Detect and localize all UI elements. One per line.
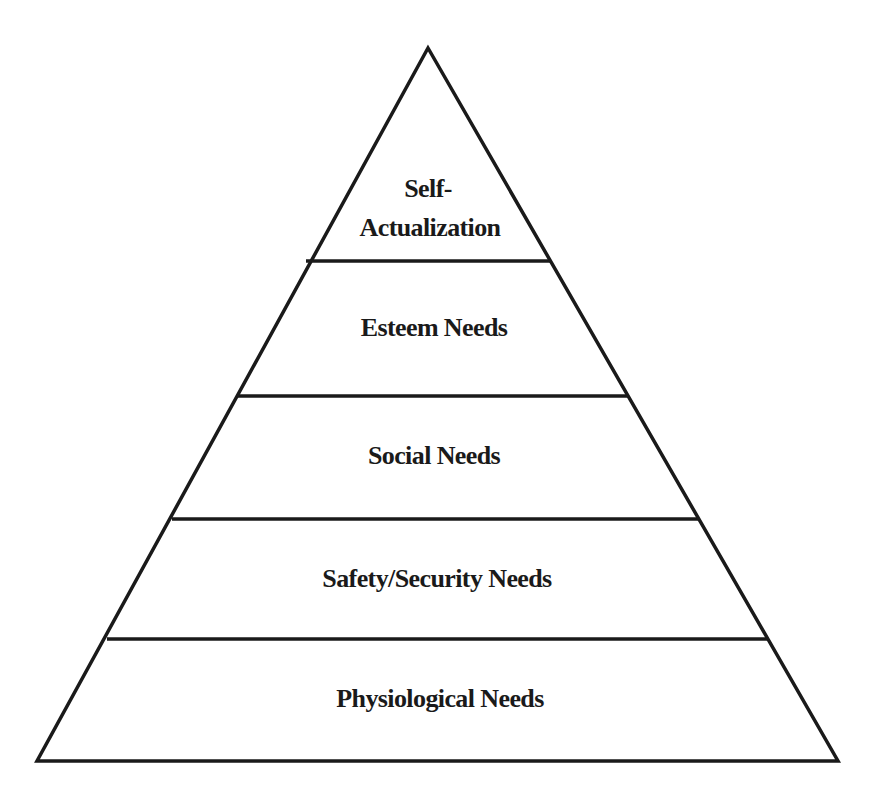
level-esteem: Esteem Needs [361, 313, 508, 342]
level-label: Self- [404, 174, 452, 203]
pyramid-outline [37, 48, 838, 761]
level-label: Safety/Security Needs [322, 564, 552, 593]
level-physiological: Physiological Needs [336, 684, 544, 713]
level-label: Actualization [360, 213, 502, 242]
level-label: Social Needs [368, 441, 501, 470]
level-social: Social Needs [368, 441, 501, 470]
level-safety: Safety/Security Needs [322, 564, 552, 593]
level-label: Physiological Needs [336, 684, 544, 713]
needs-pyramid: Self- Actualization Esteem Needs Social … [0, 0, 873, 809]
level-label: Esteem Needs [361, 313, 508, 342]
